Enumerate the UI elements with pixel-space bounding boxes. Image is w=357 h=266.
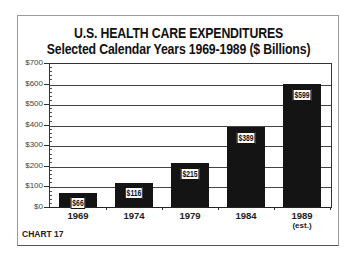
x-tick-label: 1989(est.) bbox=[274, 211, 330, 231]
x-tick bbox=[106, 207, 107, 210]
y-tick-label: $200 bbox=[14, 162, 43, 170]
y-tick-label: $600 bbox=[14, 80, 43, 88]
bar-value-label: $389 bbox=[237, 132, 255, 144]
bar-value-label: $599 bbox=[293, 89, 311, 101]
y-tick-label: $100 bbox=[14, 182, 43, 190]
bar-value-label: $66 bbox=[71, 197, 86, 209]
chart-title: U.S. HEALTH CARE EXPENDITURES bbox=[32, 24, 325, 41]
y-tick-label: $500 bbox=[14, 100, 43, 108]
x-tick bbox=[218, 207, 219, 210]
chart-subtitle: Selected Calendar Years 1969-1989 ($ Bil… bbox=[32, 40, 325, 57]
x-tick bbox=[274, 207, 275, 210]
chart-caption: CHART 17 bbox=[22, 229, 64, 239]
bar-1989 bbox=[283, 84, 321, 207]
y-tick-label: $400 bbox=[14, 121, 43, 129]
y-tick-label: $300 bbox=[14, 141, 43, 149]
y-axis bbox=[49, 63, 50, 208]
y-tick-label: $700 bbox=[14, 59, 43, 67]
x-tick-label: 1969 bbox=[50, 211, 106, 221]
bar-value-label: $215 bbox=[181, 168, 199, 180]
y-tick-label: $0 bbox=[14, 203, 43, 211]
x-tick-label: 1974 bbox=[106, 211, 162, 221]
x-tick-label: 1979 bbox=[162, 211, 218, 221]
x-axis bbox=[49, 207, 332, 208]
x-tick-label: 1984 bbox=[218, 211, 274, 221]
x-tick bbox=[162, 207, 163, 210]
x-tick bbox=[330, 207, 331, 210]
bar-value-label: $116 bbox=[125, 187, 143, 199]
